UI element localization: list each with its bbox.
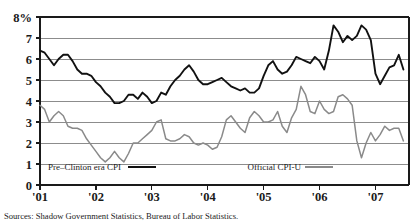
y-tick-label-6: 6 (26, 53, 32, 67)
y-tick-label-3: 3 (26, 116, 32, 130)
series-line-official-cpi-u (40, 86, 403, 162)
y-tick-label-2: 2 (26, 137, 32, 151)
x-tick-label-04: '04 (200, 190, 217, 204)
cpi-comparison-figure: 012345678% '01'02'03'04'05'06'07 Pre–Cli… (0, 0, 420, 223)
x-tick-label-06: '06 (312, 190, 328, 204)
x-axis-tick-labels: '01'02'03'04'05'06'07 (32, 190, 383, 204)
gridlines (40, 38, 409, 164)
x-tick-label-05: '05 (256, 190, 272, 204)
data-series (40, 25, 403, 162)
y-tick-label-4: 4 (26, 95, 33, 109)
source-note: Sources: Shadow Government Statistics, B… (4, 205, 416, 223)
x-tick-label-03: '03 (144, 190, 160, 204)
y-tick-label-5: 5 (26, 74, 32, 88)
y-tick-label-8: 8% (13, 11, 32, 25)
legend-label-official-cpi-u: Official CPI-U (247, 162, 301, 172)
y-axis-tick-labels: 012345678% (13, 11, 33, 193)
chart-canvas: 012345678% '01'02'03'04'05'06'07 Pre–Cli… (0, 0, 420, 223)
y-tick-label-1: 1 (26, 158, 32, 172)
series-line-pre-clinton-cpi (40, 25, 403, 103)
y-tick-label-7: 7 (26, 32, 32, 46)
x-tick-label-02: '02 (88, 190, 104, 204)
x-tick-label-07: '07 (367, 190, 383, 204)
legend-label-pre-clinton-cpi: Pre–Clinton era CPI (48, 162, 121, 172)
source-note-text: Sources: Shadow Government Statistics, B… (4, 211, 238, 221)
x-tick-label-01: '01 (32, 190, 48, 204)
